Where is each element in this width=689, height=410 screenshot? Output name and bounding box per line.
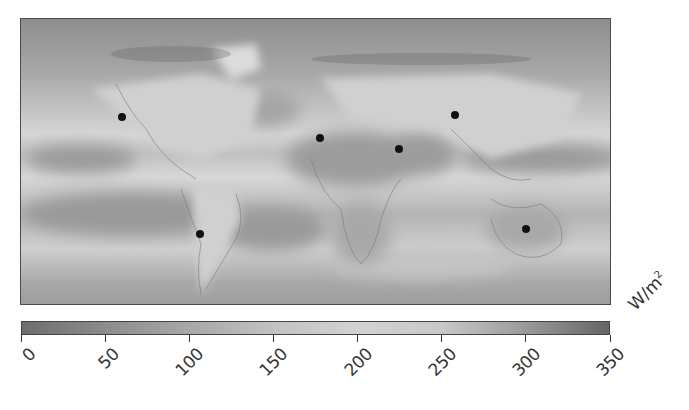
colorbar-tick-label: 250 bbox=[424, 344, 460, 380]
world-radiation-map bbox=[20, 18, 611, 305]
colorbar-tick bbox=[105, 335, 106, 342]
colorbar bbox=[21, 321, 610, 335]
location-marker bbox=[522, 225, 530, 233]
colorbar-tick-label: 150 bbox=[255, 344, 291, 380]
colorbar-tick bbox=[21, 335, 22, 342]
colorbar-tick bbox=[525, 335, 526, 342]
location-marker bbox=[316, 134, 324, 142]
colorbar-tick-label: 0 bbox=[18, 344, 39, 365]
colorbar-tick bbox=[357, 335, 358, 342]
map-shading bbox=[21, 19, 611, 305]
colorbar-tick-label: 350 bbox=[592, 344, 628, 380]
colorbar-tick bbox=[441, 335, 442, 342]
colorbar-tick-label: 200 bbox=[340, 344, 376, 380]
location-marker bbox=[196, 230, 204, 238]
location-marker bbox=[395, 145, 403, 153]
colorbar-tick bbox=[273, 335, 274, 342]
colorbar-tick bbox=[189, 335, 190, 342]
location-marker bbox=[451, 111, 459, 119]
colorbar-tick-label: 300 bbox=[508, 344, 544, 380]
colorbar-tick bbox=[610, 335, 611, 342]
colorbar-tick-label: 100 bbox=[171, 344, 207, 380]
location-marker bbox=[118, 113, 126, 121]
colorbar-unit-label: W/m2 bbox=[624, 268, 670, 314]
colorbar-tick-label: 50 bbox=[94, 344, 123, 373]
